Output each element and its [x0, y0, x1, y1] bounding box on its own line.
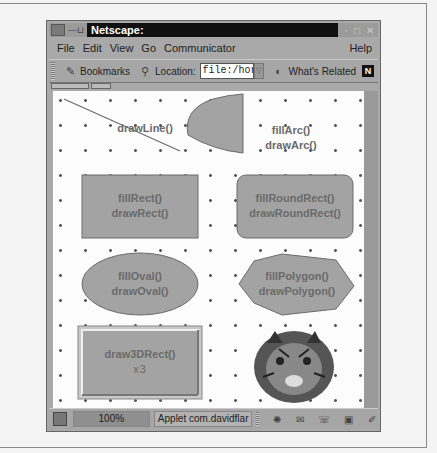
toolbar-grip[interactable] [51, 62, 55, 80]
component-bar-grip[interactable] [256, 412, 259, 426]
location-label: Location: [155, 66, 196, 77]
location-input[interactable]: file:/hor [200, 63, 254, 79]
progress-zoom: 100% [73, 411, 150, 427]
status-bar: 100% Applet com.davidflar ✺ ✉ ☏ ▣ ✐ [49, 408, 378, 429]
location-icon: ⚲ [138, 65, 152, 77]
location-toolbar: ✎ Bookmarks ⚲ Location: file:/hor ▽ ◐ Wh… [49, 59, 378, 83]
menu-help[interactable]: Help [349, 42, 372, 54]
minimize-icon[interactable]: · [345, 25, 348, 36]
shade-icon[interactable]: —⊔ [68, 25, 84, 35]
arc-label: fillArc() drawArc() [256, 123, 326, 153]
toolbar-tab[interactable] [51, 83, 89, 89]
applet-canvas[interactable]: drawLine() fillArc() drawArc() fillRect(… [53, 91, 364, 410]
navigator-icon[interactable]: ✺ [271, 414, 283, 425]
maximize-icon[interactable]: □ [354, 25, 360, 36]
rect-label: fillRect() drawRect() [90, 191, 190, 221]
discussion-icon[interactable]: ☏ [318, 414, 330, 425]
oval-label: fillOval() drawOval() [90, 269, 190, 299]
netscape-logo[interactable]: N [362, 65, 374, 77]
line-label: drawLine() [110, 121, 180, 136]
edit-icon[interactable]: ✐ [366, 414, 378, 425]
netscape-window: —⊔ Netscape: · □ ✕ File Edit View Go Com… [46, 20, 381, 432]
whats-related-button[interactable]: What's Related [289, 66, 357, 77]
collapsed-toolbar-tabs [49, 83, 378, 89]
menu-view[interactable]: View [110, 42, 134, 54]
3d-rect-label: draw3DRect() x3 [82, 347, 198, 377]
close-icon[interactable]: ✕ [366, 25, 374, 36]
mail-icon[interactable]: ✉ [294, 414, 306, 425]
composer-icon[interactable]: ▣ [342, 414, 354, 425]
menu-edit[interactable]: Edit [83, 42, 102, 54]
status-message: Applet com.davidflar [154, 411, 252, 427]
window-menu-icon[interactable] [51, 24, 65, 36]
arc-shape [187, 94, 243, 153]
vertical-scrollbar[interactable] [364, 91, 378, 410]
toolbar-tab[interactable] [91, 83, 111, 89]
location-dropdown[interactable]: ▽ [254, 63, 264, 79]
polygon-label: fillPolygon() drawPolygon() [239, 269, 355, 299]
security-lock-icon[interactable] [53, 412, 67, 426]
whats-related-icon[interactable]: ◐ [272, 65, 286, 77]
title-bar[interactable]: —⊔ Netscape: · □ ✕ [49, 23, 378, 37]
bookmarks-icon[interactable]: ✎ [63, 65, 77, 77]
round-rect-label: fillRoundRect() drawRoundRect() [237, 191, 353, 221]
bookmarks-button[interactable]: Bookmarks [80, 66, 130, 77]
menu-communicator[interactable]: Communicator [164, 42, 236, 54]
menu-bar: File Edit View Go Communicator Help [49, 39, 378, 57]
menu-go[interactable]: Go [141, 42, 156, 54]
window-title: Netscape: [87, 23, 338, 37]
tiger-image [254, 331, 334, 403]
menu-file[interactable]: File [57, 42, 75, 54]
